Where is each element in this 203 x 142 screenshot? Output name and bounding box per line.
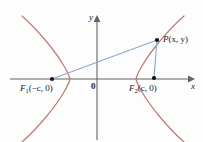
point-p-dot [155, 38, 159, 42]
focus-right-label: F2(c, 0) [129, 84, 157, 94]
point-p-label: P(x, y) [163, 35, 188, 44]
focus-right-label-coords: (c, 0) [138, 83, 157, 93]
focus-left-label-coords: (−c, 0) [29, 83, 53, 93]
origin-label: 0 [91, 82, 96, 91]
y-axis-arrowhead [94, 15, 101, 22]
point-p-label-coords: (x, y) [169, 34, 189, 44]
x-axis-label: x [191, 82, 195, 91]
y-axis [94, 15, 101, 140]
focus-left-dot [50, 77, 54, 81]
segment-f1-p [52, 40, 157, 79]
focus-right-dot [152, 76, 156, 80]
x-axis [10, 76, 195, 83]
hyperbola-figure: y x 0 F1(−c, 0) F2(c, 0) P(x, y) [0, 0, 203, 142]
figure-canvas [0, 0, 203, 142]
y-axis-label: y [89, 13, 93, 22]
focus-left-label: F1(−c, 0) [20, 84, 53, 94]
